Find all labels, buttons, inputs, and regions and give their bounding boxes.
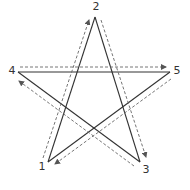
stroke-1-to-2	[48, 17, 95, 162]
stroke-5-to-1	[48, 72, 170, 162]
point-label-2: 2	[93, 0, 100, 13]
point-label-1: 1	[39, 160, 46, 173]
point-label-3: 3	[143, 163, 150, 176]
point-label-5: 5	[174, 64, 181, 77]
direction-arrows	[19, 20, 171, 166]
pentagram-diagram: 12345	[0, 0, 190, 190]
stroke-2-to-3	[95, 17, 140, 162]
arrow-5-to-1-icon	[55, 79, 171, 164]
star-strokes	[18, 17, 170, 162]
point-label-4: 4	[9, 64, 16, 77]
arrow-3-to-4-icon	[19, 81, 134, 166]
stroke-3-to-4	[18, 72, 140, 162]
point-labels: 12345	[9, 0, 181, 176]
arrow-2-to-3-icon	[101, 20, 146, 157]
